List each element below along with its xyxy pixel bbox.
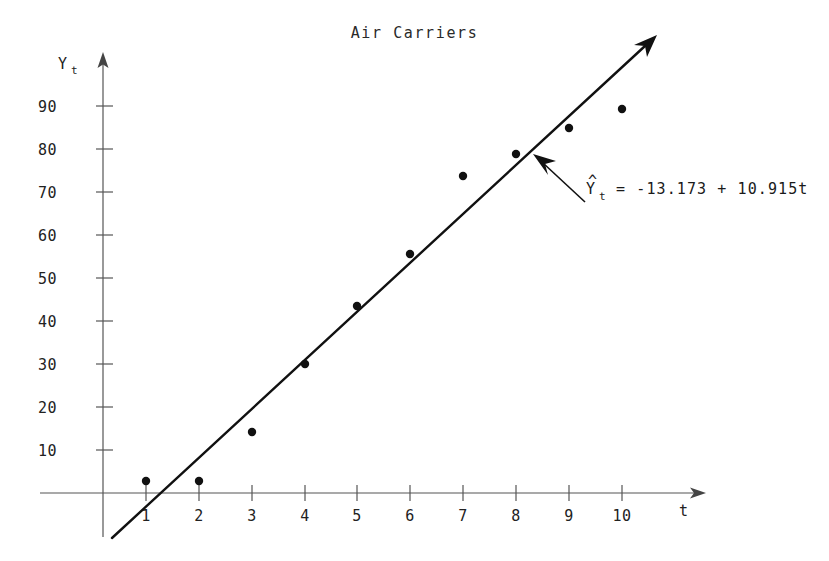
x-tick-5: 5 [352, 485, 362, 525]
data-point [565, 124, 573, 132]
y-tick-20: 20 [38, 399, 113, 417]
data-point [406, 250, 414, 258]
y-tick-label: 30 [38, 356, 57, 374]
y-tick-label: 40 [38, 313, 57, 331]
x-tick-4: 4 [300, 485, 310, 525]
y-tick-label: 70 [38, 184, 57, 202]
chart-figure: Air Carriers Y t 90 80 70 [0, 0, 829, 561]
x-tick-7: 7 [458, 485, 468, 525]
data-point [459, 172, 467, 180]
x-tick-label: 8 [511, 507, 521, 525]
y-tick-80: 80 [38, 141, 113, 159]
y-tick-30: 30 [38, 356, 113, 374]
annotation-pointer-line [543, 163, 585, 202]
data-point [301, 360, 309, 368]
y-tick-label: 90 [38, 98, 57, 116]
regression-trendline [112, 46, 645, 538]
y-tick-60: 60 [38, 227, 113, 245]
x-tick-label: 5 [352, 507, 362, 525]
y-tick-40: 40 [38, 313, 113, 331]
x-tick-label: 9 [564, 507, 574, 525]
y-axis: Y t 90 80 70 60 50 [38, 52, 113, 537]
data-point [512, 150, 520, 158]
y-tick-70: 70 [38, 184, 113, 202]
x-tick-label: 3 [247, 507, 257, 525]
x-tick-10: 10 [612, 485, 631, 525]
x-tick-label: 6 [405, 507, 415, 525]
x-tick-6: 6 [405, 485, 415, 525]
data-point [195, 477, 203, 485]
equation-annotation: ^ Y t = -13.173 + 10.915t [533, 154, 808, 203]
x-tick-9: 9 [564, 485, 574, 525]
data-point [142, 477, 150, 485]
equation-variable: Y [586, 180, 596, 198]
y-axis-label: Y [58, 55, 67, 73]
data-point [248, 428, 256, 436]
x-tick-label: 4 [300, 507, 310, 525]
x-axis: t 1 2 3 4 5 6 [40, 485, 706, 525]
x-tick-2: 2 [194, 485, 204, 525]
regression-line-group [112, 35, 657, 538]
y-tick-label: 20 [38, 399, 57, 417]
equation-variable-subscript: t [599, 190, 606, 203]
x-tick-3: 3 [247, 485, 257, 525]
x-tick-label: 2 [194, 507, 204, 525]
y-tick-label: 10 [38, 442, 57, 460]
y-tick-10: 10 [38, 442, 113, 460]
scatter-plot-canvas: Y t 90 80 70 60 50 [0, 0, 829, 561]
y-tick-label: 50 [38, 270, 57, 288]
y-tick-90: 90 [38, 98, 113, 116]
y-axis-label-subscript: t [71, 64, 78, 77]
y-tick-50: 50 [38, 270, 113, 288]
x-tick-8: 8 [511, 485, 521, 525]
data-point [353, 302, 361, 310]
data-points-group [142, 105, 626, 485]
x-axis-label: t [679, 502, 688, 520]
x-tick-label: 7 [458, 507, 468, 525]
x-tick-label: 10 [612, 507, 631, 525]
y-tick-label: 60 [38, 227, 57, 245]
data-point [618, 105, 626, 113]
y-tick-label: 80 [38, 141, 57, 159]
equation-body: = -13.173 + 10.915t [616, 180, 808, 198]
